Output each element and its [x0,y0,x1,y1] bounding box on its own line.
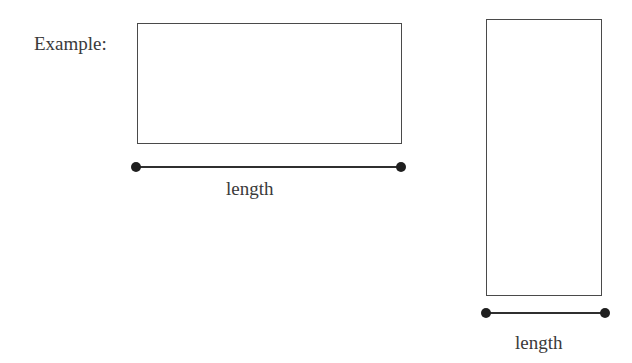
horizontal-rectangle [137,23,402,144]
horizontal-length-label: length [226,178,274,200]
vertical-rectangle [486,19,602,296]
endpoint-dot-icon [600,308,610,318]
example-label: Example: [34,33,107,55]
horizontal-length-measure-line [136,166,401,168]
endpoint-dot-icon [131,162,141,172]
endpoint-dot-icon [396,162,406,172]
vertical-length-label: length [515,332,563,354]
endpoint-dot-icon [481,308,491,318]
vertical-length-measure-line [486,312,605,314]
